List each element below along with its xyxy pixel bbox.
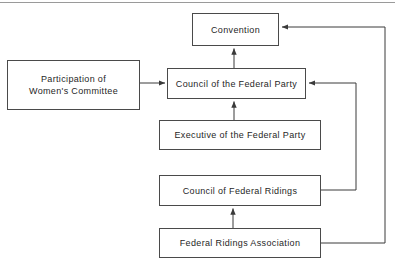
node-executive-of-the-federal-party[interactable]: Executive of the Federal Party <box>159 120 321 150</box>
node-federal-ridings-association[interactable]: Federal Ridings Association <box>159 228 321 258</box>
org-diagram: Convention Council of the Federal Party … <box>0 0 395 265</box>
node-council-of-federal-ridings[interactable]: Council of Federal Ridings <box>159 175 321 206</box>
node-convention[interactable]: Convention <box>192 13 279 46</box>
node-council-of-the-federal-party[interactable]: Council of the Federal Party <box>167 68 306 99</box>
node-participation-of-womens-committee[interactable]: Participation of Women's Committee <box>7 60 140 110</box>
